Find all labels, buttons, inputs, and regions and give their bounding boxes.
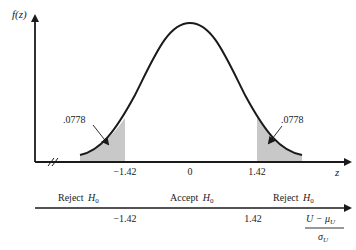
statistic-numerator: U − μU (306, 213, 336, 226)
reject-left-label: Reject H0 (58, 192, 99, 205)
left-tail-pointer (93, 125, 108, 144)
tick-label-zero: 0 (188, 166, 193, 177)
critical-value-pos: 1.42 (244, 213, 262, 224)
tick-label-pos: 1.42 (248, 166, 266, 177)
x-axis-label: z (334, 166, 340, 178)
critical-value-neg: −1.42 (113, 213, 136, 224)
y-axis-label: f(z) (12, 8, 27, 21)
statistic-denominator: σU (318, 231, 329, 244)
tick-label-neg: −1.42 (113, 166, 136, 177)
right-tail-area-label: .0778 (281, 114, 304, 125)
accept-label: Accept H0 (170, 192, 214, 205)
normal-distribution-diagram: f(z) z −1.42 0 1.42 .0778 .0778 Reject H… (0, 0, 356, 250)
reject-right-label: Reject H0 (273, 192, 314, 205)
left-tail-area-label: .0778 (63, 114, 86, 125)
